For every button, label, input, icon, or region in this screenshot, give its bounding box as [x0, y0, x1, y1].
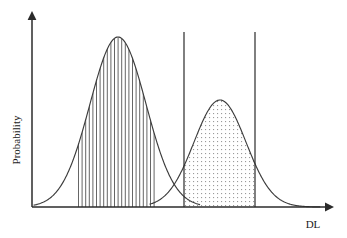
x-axis-label: DL — [306, 218, 321, 230]
y-axis-arrowhead — [28, 11, 37, 20]
distribution-2-dot-fill — [0, 0, 347, 238]
plot-canvas: Probability DL — [0, 0, 347, 238]
probability-distribution-figure: Probability DL — [0, 0, 347, 238]
x-axis-arrowhead — [325, 203, 334, 212]
distribution-1-curve — [34, 37, 200, 205]
y-axis-label: Probability — [10, 115, 22, 164]
distribution-1-hatch-fill — [79, 31, 155, 207]
